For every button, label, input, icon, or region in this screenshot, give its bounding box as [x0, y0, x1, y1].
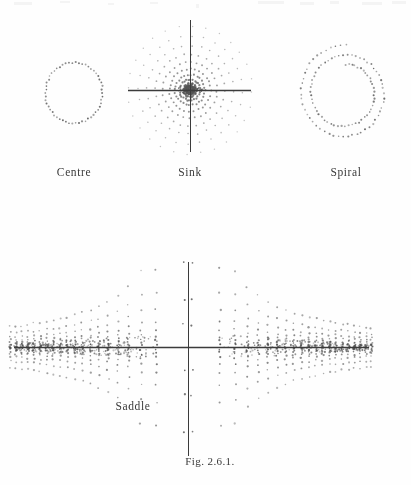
- figure-page: Centre Sink Spiral Saddle Fig. 2.6.1.: [0, 0, 411, 485]
- panel-label-spiral: Spiral: [308, 166, 384, 178]
- panel-label-sink: Sink: [152, 166, 228, 178]
- panel-label-saddle: Saddle: [78, 400, 188, 412]
- figure-caption: Fig. 2.6.1.: [150, 455, 270, 467]
- phase-portrait-canvas: [0, 0, 411, 485]
- panel-label-centre: Centre: [36, 166, 112, 178]
